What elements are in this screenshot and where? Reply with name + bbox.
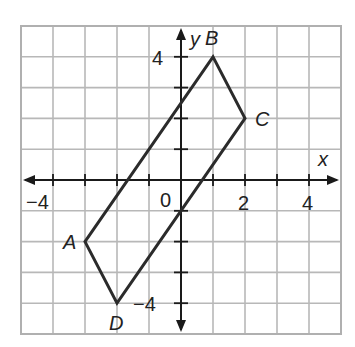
y-tick-label-4: 4 <box>152 47 163 69</box>
x-tick-label-neg4: −4 <box>26 191 49 213</box>
vertex-label-a: A <box>62 231 76 253</box>
vertex-label-c: C <box>255 108 270 130</box>
origin-label: 0 <box>160 189 171 211</box>
coordinate-plane: x y 0 −4 2 4 4 −4 A B C D <box>0 0 355 347</box>
y-tick-label-neg4: −4 <box>133 293 156 315</box>
y-axis-arrow-up-icon <box>176 28 186 40</box>
x-tick-label-4: 4 <box>302 192 313 214</box>
y-axis-label: y <box>188 28 201 50</box>
vertex-label-d: D <box>109 312 123 334</box>
y-axis-arrow-down-icon <box>176 320 186 332</box>
axes <box>23 28 339 332</box>
x-axis-label: x <box>317 148 329 170</box>
x-tick-label-2: 2 <box>238 192 249 214</box>
vertex-label-b: B <box>205 27 218 49</box>
x-axis-arrow-left-icon <box>23 175 35 185</box>
x-axis-arrow-right-icon <box>327 175 339 185</box>
